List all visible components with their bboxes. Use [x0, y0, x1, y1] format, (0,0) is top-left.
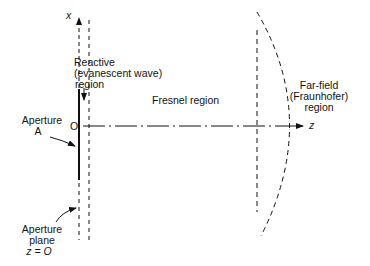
aperture-leader-arrow [50, 137, 75, 146]
aperture-plane-line-3: z = O [14, 246, 70, 257]
far-field-arc [257, 12, 290, 236]
origin-label: O [70, 121, 78, 132]
reactive-line-3: region [74, 79, 162, 90]
x-axis-label: x [66, 10, 71, 21]
aperture-line-1: Aperture [14, 115, 70, 126]
far-field-region-label: Far-field (Fraunhofer) region [279, 80, 359, 113]
fresnel-region-label: Fresnel region [152, 95, 219, 106]
aperture-plane-leader-arrow [56, 208, 76, 222]
aperture-plane-label: Aperture plane z = O [14, 224, 70, 257]
reactive-region-label: Reactive (evanescent wave) region [74, 57, 162, 90]
z-axis-label: z [309, 120, 314, 131]
far-field-line-3: region [279, 102, 359, 113]
aperture-label: Aperture A [14, 115, 70, 137]
aperture-line-2: A [14, 126, 70, 137]
